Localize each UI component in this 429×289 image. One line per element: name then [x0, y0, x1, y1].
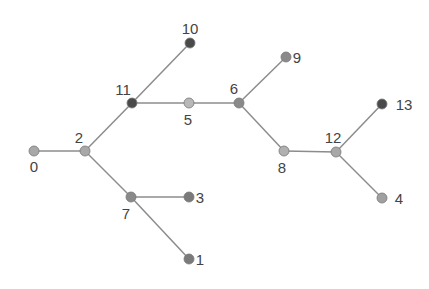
node-4 [377, 193, 387, 203]
node-label-0: 0 [30, 158, 38, 175]
node-label-13: 13 [396, 96, 413, 113]
node-label-8: 8 [278, 159, 286, 176]
node-label-6: 6 [230, 80, 238, 97]
node-6 [234, 98, 244, 108]
node-10 [185, 38, 195, 48]
node-label-7: 7 [122, 205, 130, 222]
labels-layer: 012345678910111213 [30, 20, 413, 268]
node-8 [279, 146, 289, 156]
node-label-3: 3 [196, 189, 204, 206]
node-label-10: 10 [182, 20, 199, 37]
node-2 [80, 146, 90, 156]
tree-diagram: 012345678910111213 [0, 0, 429, 289]
node-label-9: 9 [293, 49, 301, 66]
edge-12-4 [336, 152, 382, 198]
edge-2-7 [85, 151, 131, 197]
node-label-5: 5 [184, 111, 192, 128]
node-5 [184, 98, 194, 108]
edge-2-11 [85, 103, 132, 151]
node-9 [281, 52, 291, 62]
node-1 [184, 254, 194, 264]
edge-7-1 [131, 197, 189, 259]
node-label-1: 1 [196, 251, 204, 268]
node-0 [29, 146, 39, 156]
edge-6-9 [239, 57, 286, 103]
node-11 [127, 98, 137, 108]
node-label-12: 12 [325, 129, 342, 146]
node-3 [184, 192, 194, 202]
node-7 [126, 192, 136, 202]
node-label-11: 11 [115, 81, 131, 98]
node-label-4: 4 [395, 190, 403, 207]
edge-11-10 [132, 43, 190, 103]
edge-6-8 [239, 103, 284, 151]
nodes-layer [29, 38, 387, 264]
edge-12-13 [336, 104, 382, 152]
node-12 [331, 147, 341, 157]
node-label-2: 2 [75, 129, 83, 146]
edge-8-12 [284, 151, 336, 152]
node-13 [377, 99, 387, 109]
